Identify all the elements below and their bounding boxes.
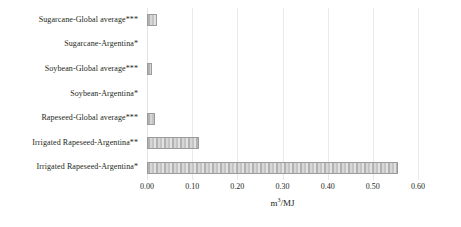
bar: [147, 14, 157, 26]
gridline-0.60: [418, 8, 419, 180]
bar-row: [147, 33, 418, 58]
x-tick-label: 0.50: [366, 182, 380, 191]
category-label: Soybean-Argentina*: [0, 82, 143, 107]
bar-row: [147, 82, 418, 107]
category-axis-labels: Sugarcane-Global average***Sugarcane-Arg…: [0, 8, 143, 180]
x-tick-label: 0.20: [230, 182, 244, 191]
bar-row: [147, 57, 418, 82]
bar: [147, 63, 152, 75]
bar-row: [147, 131, 418, 156]
x-tick-label: 0.40: [321, 182, 335, 191]
x-axis-title: m3/MJ: [147, 197, 418, 208]
bar: [147, 113, 155, 125]
x-tick-label: 0.60: [411, 182, 425, 191]
category-label: Sugarcane-Argentina*: [0, 33, 143, 58]
category-label: Irrigated Rapeseed-Argentina*: [0, 155, 143, 180]
category-label: Rapeseed-Global average***: [0, 106, 143, 131]
x-axis-ticks: 0.000.100.200.300.400.500.60: [147, 180, 418, 194]
bar-row: [147, 155, 418, 180]
x-tick-label: 0.00: [140, 182, 154, 191]
x-tick-label: 0.30: [276, 182, 290, 191]
bar: [147, 137, 199, 149]
bar-chart: Sugarcane-Global average***Sugarcane-Arg…: [0, 0, 461, 227]
x-tick-label: 0.10: [185, 182, 199, 191]
plot-area: [147, 8, 418, 180]
bar-rows: [147, 8, 418, 180]
category-label: Soybean-Global average***: [0, 57, 143, 82]
category-label: Sugarcane-Global average***: [0, 8, 143, 33]
category-label: Irrigated Rapeseed-Argentina**: [0, 131, 143, 156]
bar-row: [147, 106, 418, 131]
x-axis-title-text: m3/MJ: [270, 198, 294, 208]
bar: [147, 162, 398, 174]
bar-row: [147, 8, 418, 33]
